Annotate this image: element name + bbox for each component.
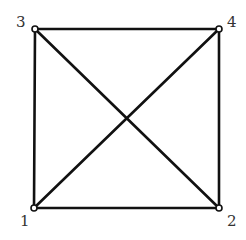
edge-3-1 xyxy=(34,29,35,208)
vertex-label-2: 2 xyxy=(227,212,237,230)
vertex-label-4: 4 xyxy=(227,13,237,31)
vertex-2 xyxy=(216,205,222,211)
edges-group xyxy=(34,29,219,208)
vertex-3 xyxy=(32,26,38,32)
vertex-1 xyxy=(31,205,37,211)
vertex-4 xyxy=(216,26,222,32)
vertex-label-1: 1 xyxy=(20,212,30,230)
vertex-label-3: 3 xyxy=(16,13,26,31)
k4-graph-diagram: 1 2 3 4 xyxy=(0,0,246,240)
